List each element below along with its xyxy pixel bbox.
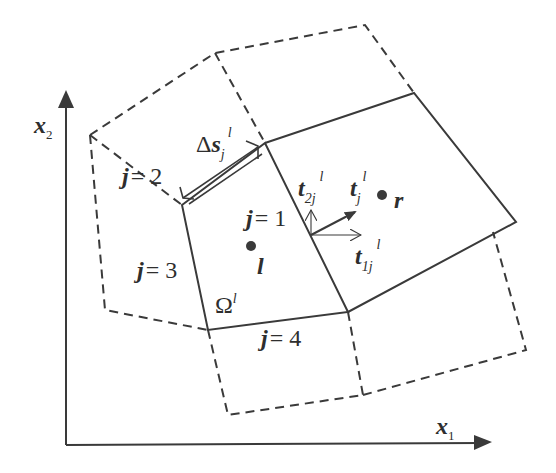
edge-label-j4: j= 4 [257, 325, 301, 351]
x1-arrowhead-icon [474, 435, 492, 450]
center-l-label: l [257, 253, 264, 279]
x1-axis-label: x1 [435, 413, 455, 443]
omega-l-label: Ωl [215, 291, 237, 318]
center-r-label: r [394, 187, 404, 213]
edge-length-label: Δsjl [196, 125, 232, 162]
mesh-diagram: x2 x1 Δsjl j= 2 j= 1 j= 3 j= 4 Ωl l r t2… [0, 0, 556, 473]
x2-arrowhead-icon [58, 90, 74, 108]
dashed-bottom-right [363, 232, 526, 395]
dashed-top-divider [215, 53, 265, 143]
t-label: tjl [350, 169, 367, 206]
edge-label-j2: j= 2 [118, 163, 162, 189]
edge-label-j1: j= 1 [242, 205, 286, 231]
neighbour-cells-dashed [90, 25, 526, 415]
x1-axis [66, 443, 483, 445]
edge-label-j3: j= 3 [133, 257, 177, 283]
dashed-bottom-mid [348, 312, 363, 395]
cell-r [265, 93, 516, 312]
edge-vectors [311, 210, 361, 235]
center-r-dot [377, 190, 387, 200]
t-j-vector [311, 212, 355, 235]
t1-label: t1jl [355, 237, 381, 274]
center-l-dot [246, 241, 256, 251]
x2-axis-label: x2 [33, 112, 53, 142]
t2-label: t2jl [298, 169, 324, 206]
